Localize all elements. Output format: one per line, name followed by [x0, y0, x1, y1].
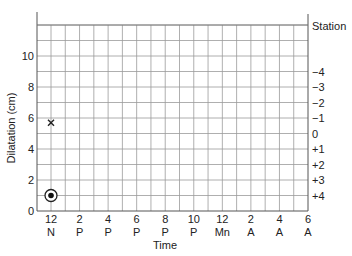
x-axis-ticks: 12N2P4P6P8P10P12Mn2A4A6A	[45, 213, 312, 238]
axes	[37, 12, 308, 211]
station-tick-label: 0	[312, 128, 318, 140]
y-tick-label: 0	[28, 205, 34, 217]
station-ticks: −4−3−2−10+1+2+3+4	[312, 66, 325, 202]
y-axis-label: Dilatation (cm)	[5, 93, 17, 164]
station-tick-label: +2	[312, 159, 325, 171]
station-axis-label: Station	[312, 20, 346, 32]
station-tick-label: +3	[312, 174, 325, 186]
x-tick-label-period: N	[47, 226, 55, 238]
station-tick-label: −2	[312, 97, 325, 109]
x-tick-label-period: A	[276, 226, 284, 238]
y-tick-label: 2	[28, 174, 34, 186]
y-tick-label: 4	[28, 143, 34, 155]
y-tick-label: 8	[28, 81, 34, 93]
x-tick-label-period: A	[304, 226, 312, 238]
x-tick-label-period: P	[190, 226, 197, 238]
x-tick-label-hour: 8	[162, 213, 168, 225]
x-tick-label-period: A	[247, 226, 255, 238]
station-tick-label: −4	[312, 66, 325, 78]
x-tick-label-hour: 6	[305, 213, 311, 225]
x-tick-label-period: P	[133, 226, 140, 238]
y-tick-label: 10	[22, 50, 34, 62]
x-tick-label-hour: 2	[248, 213, 254, 225]
y-axis-ticks: 0246810	[22, 50, 34, 217]
x-tick-label-hour: 4	[105, 213, 111, 225]
x-tick-label-period: P	[162, 226, 169, 238]
y-tick-label: 6	[28, 112, 34, 124]
x-tick-label-hour: 12	[45, 213, 57, 225]
x-tick-label-hour: 4	[276, 213, 282, 225]
x-tick-label-period: P	[76, 226, 83, 238]
x-tick-label-hour: 6	[134, 213, 140, 225]
x-tick-label-hour: 2	[76, 213, 82, 225]
x-tick-label-period: P	[104, 226, 111, 238]
labor-graph-chart: 0246810 12N2P4P6P8P10P12Mn2A4A6A −4−3−2−…	[0, 0, 352, 256]
x-tick-label-period: Mn	[215, 226, 230, 238]
station-tick-label: −3	[312, 81, 325, 93]
station-tick-label: −1	[312, 112, 325, 124]
station-tick-label: +4	[312, 190, 325, 202]
dilatation-circled-dot-marker	[45, 190, 57, 202]
x-axis-label: Time	[153, 239, 177, 251]
grid-lines	[37, 25, 308, 211]
x-tick-label-hour: 12	[216, 213, 228, 225]
x-tick-label-hour: 10	[188, 213, 200, 225]
station-tick-label: +1	[312, 143, 325, 155]
